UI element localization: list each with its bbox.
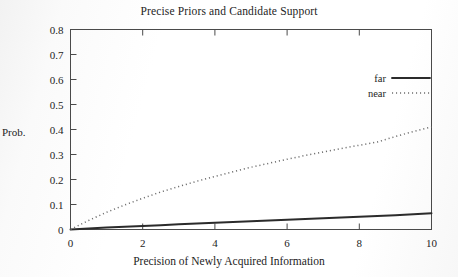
plot-frame [71,30,432,230]
y-tick-label: 0.4 [50,124,64,136]
y-tick-label: 0.7 [50,49,64,61]
y-tick-label: 0.1 [50,199,64,211]
y-tick-label: 0 [58,224,64,236]
legend-label-near: near [368,88,387,99]
chart-figure: Precise Priors and Candidate Support Pro… [0,0,458,277]
y-tick-label: 0.2 [50,174,64,186]
x-tick-label: 4 [212,237,218,249]
chart-legend: farnear [368,73,430,99]
y-tick-label: 0.3 [50,149,64,161]
series-line-near [71,127,432,230]
plot-area: 00.10.20.30.40.50.60.70.8 0246810 farnea… [0,0,458,277]
x-tick-label: 6 [284,237,290,249]
y-tick-group: 00.10.20.30.40.50.60.70.8 [50,24,77,236]
legend-label-far: far [374,73,386,84]
series-group [71,127,432,230]
series-line-far [71,213,432,229]
y-tick-label: 0.6 [50,74,64,86]
x-tick-label: 0 [68,237,74,249]
y-tick-label: 0.5 [50,99,64,111]
x-tick-label: 2 [140,237,146,249]
x-axis-label: Precision of Newly Acquired Information [0,255,458,267]
x-tick-label: 8 [357,237,363,249]
y-tick-label: 0.8 [50,24,64,36]
x-tick-label: 10 [426,237,438,249]
